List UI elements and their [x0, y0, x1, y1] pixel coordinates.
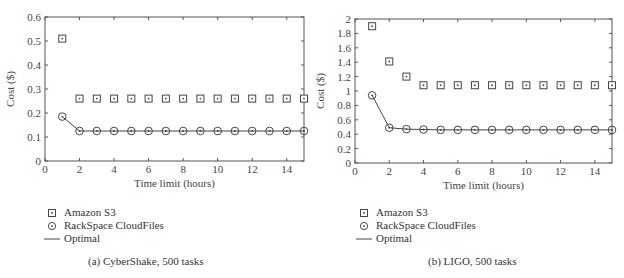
x-tick-label: 4 [111, 163, 117, 175]
amazon-s3-point [471, 82, 478, 89]
marker-dot [269, 98, 271, 100]
marker-dot [406, 128, 408, 130]
amazon-s3-point [214, 95, 221, 102]
amazon-s3-point [145, 95, 152, 102]
amazon-s3-point [506, 82, 513, 89]
marker-dot [303, 98, 305, 100]
legend-label: RackSpace CloudFiles [64, 219, 164, 232]
marker-dot [200, 98, 202, 100]
x-tick-label: 6 [146, 163, 152, 175]
marker-dot [474, 84, 476, 86]
marker-dot [200, 130, 202, 132]
marker-dot [508, 129, 510, 131]
y-tick-label: 0.6 [27, 11, 41, 23]
circle-dot-marker-icon [40, 221, 64, 231]
marker-dot [594, 129, 596, 131]
marker-dot [508, 84, 510, 86]
legend-cybershake: Amazon S3 RackSpace CloudFiles Optimal [40, 206, 164, 245]
legend-item-rackspace: RackSpace CloudFiles [40, 219, 164, 232]
amazon-s3-point [266, 95, 273, 102]
amazon-s3-point [489, 82, 496, 89]
square-dot-marker-icon [40, 208, 64, 218]
y-tick-label: 0.4 [337, 128, 351, 140]
amazon-s3-point [301, 95, 308, 102]
amazon-s3-point [454, 82, 461, 89]
amazon-s3-point [386, 58, 393, 65]
legend-label: Optimal [64, 232, 100, 245]
y-tick-label: 0.3 [27, 83, 41, 95]
marker-dot [594, 84, 596, 86]
marker-dot [611, 129, 613, 131]
amazon-s3-point [437, 82, 444, 89]
optimal-line [62, 117, 304, 131]
marker-dot [113, 130, 115, 132]
circle-dot-marker-icon [352, 221, 376, 231]
x-tick-label: 2 [387, 165, 393, 177]
x-tick-label: 8 [180, 163, 186, 175]
amazon-s3-point [111, 95, 118, 102]
y-tick-label: 0.2 [27, 107, 41, 119]
marker-dot [182, 98, 184, 100]
amazon-s3-point [180, 95, 187, 102]
marker-dot [525, 129, 527, 131]
legend-label: Amazon S3 [64, 206, 116, 219]
rackspace-point [58, 113, 66, 121]
y-tick-label: 0 [36, 155, 42, 167]
marker-dot [491, 84, 493, 86]
marker-dot [79, 130, 81, 132]
amazon-s3-point [162, 95, 169, 102]
y-tick-label: 0 [346, 157, 352, 169]
x-axis-label: Time limit (hours) [134, 177, 215, 190]
plot-frame [45, 17, 304, 161]
x-tick-label: 10 [212, 163, 224, 175]
y-tick-label: 1 [346, 85, 352, 97]
x-tick-label: 0 [352, 165, 358, 177]
marker-dot [79, 98, 81, 100]
amazon-s3-point [76, 95, 83, 102]
marker-dot [543, 129, 545, 131]
plot-frame [355, 19, 612, 163]
x-tick-label: 6 [455, 165, 461, 177]
marker-dot [96, 98, 98, 100]
line-marker-icon [40, 234, 64, 244]
marker-dot [440, 129, 442, 131]
chart-cybershake: 0246810121400.10.20.30.40.50.6Time limit… [0, 0, 312, 200]
marker-dot [388, 127, 390, 129]
marker-dot [560, 129, 562, 131]
legend-item-amazon-s3: Amazon S3 [40, 206, 164, 219]
x-tick-label: 14 [281, 163, 293, 175]
marker-dot [269, 130, 271, 132]
x-tick-label: 14 [589, 165, 601, 177]
marker-dot [130, 130, 132, 132]
y-tick-label: 0.2 [337, 143, 351, 155]
y-tick-label: 0.8 [337, 99, 351, 111]
amazon-s3-point [59, 35, 66, 42]
y-axis-label: Cost ($) [4, 71, 17, 107]
y-axis-label: Cost ($) [314, 73, 327, 109]
marker-dot [577, 129, 579, 131]
y-tick-label: 1.2 [337, 71, 351, 83]
x-tick-label: 12 [247, 163, 258, 175]
chart-panel-cybershake: 0246810121400.10.20.30.40.50.6Time limit… [0, 0, 312, 278]
marker-dot [251, 98, 253, 100]
marker-dot [406, 76, 408, 78]
marker-dot [303, 130, 305, 132]
amazon-s3-point [523, 82, 530, 89]
marker-dot [560, 84, 562, 86]
amazon-s3-point [591, 82, 598, 89]
x-tick-label: 8 [489, 165, 495, 177]
marker-dot [371, 94, 373, 96]
marker-dot [286, 130, 288, 132]
marker-dot [96, 130, 98, 132]
x-tick-label: 4 [421, 165, 427, 177]
marker-dot [217, 130, 219, 132]
y-tick-label: 1.6 [337, 42, 351, 54]
y-tick-label: 0.5 [27, 35, 41, 47]
legend-label: Optimal [376, 232, 412, 245]
amazon-s3-point [369, 23, 376, 30]
legend-ligo: Amazon S3 RackSpace CloudFiles Optimal [352, 206, 476, 245]
x-axis-label: Time limit (hours) [443, 179, 524, 192]
y-tick-label: 2 [346, 13, 352, 25]
amazon-s3-point [283, 95, 290, 102]
y-tick-label: 1.4 [337, 56, 351, 68]
